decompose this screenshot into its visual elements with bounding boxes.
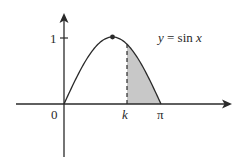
x-label-k: k (122, 107, 128, 122)
max-point-dot (110, 35, 115, 40)
sine-graph-svg: 1 0 k π y = sin x (0, 0, 241, 167)
x-label-pi: π (157, 107, 164, 122)
y-tick-label-1: 1 (50, 31, 57, 46)
sine-graph-diagram: 1 0 k π y = sin x (0, 0, 241, 167)
origin-label: 0 (51, 107, 58, 122)
function-label-x: x (195, 30, 202, 45)
function-label-eq: = sin (164, 30, 196, 45)
function-label: y = sin x (156, 30, 202, 45)
shaded-region (127, 44, 161, 104)
